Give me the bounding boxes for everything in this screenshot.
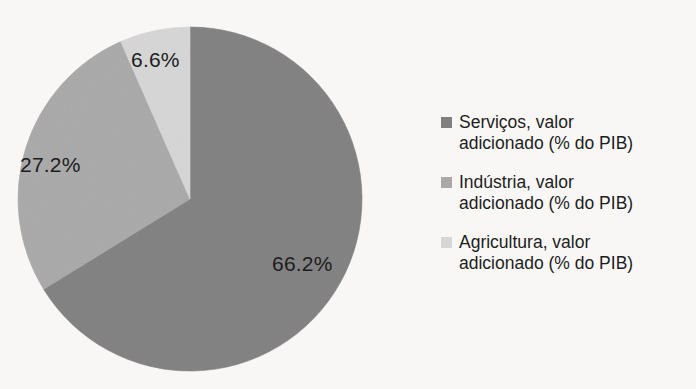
legend-label-agricultura-line1: Agricultura, valor — [459, 232, 590, 252]
legend-label-agricultura-line2: adicionado (% do PIB) — [459, 253, 633, 273]
legend-item-industria[interactable]: Indústria, valoradicionado (% do PIB) — [441, 172, 691, 214]
legend-label-industria: Indústria, valoradicionado (% do PIB) — [459, 172, 633, 214]
legend-swatch-icon-servicos — [441, 117, 452, 128]
legend-label-servicos: Serviços, valoradicionado (% do PIB) — [459, 112, 633, 154]
pie-texture-overlay — [18, 27, 362, 371]
legend-swatch-icon-industria — [441, 177, 452, 188]
legend-label-servicos-line1: Serviços, valor — [459, 112, 574, 132]
legend-item-servicos[interactable]: Serviços, valoradicionado (% do PIB) — [441, 112, 691, 154]
legend-label-agricultura: Agricultura, valoradicionado (% do PIB) — [459, 232, 633, 274]
legend-label-servicos-line2: adicionado (% do PIB) — [459, 133, 633, 153]
legend-item-agricultura[interactable]: Agricultura, valoradicionado (% do PIB) — [441, 232, 691, 274]
chart-legend: Serviços, valoradicionado (% do PIB) Ind… — [441, 112, 691, 292]
pie-chart-figure: 66.2% 27.2% 6.6% Serviços, valoradiciona… — [0, 0, 696, 389]
legend-label-industria-line1: Indústria, valor — [459, 172, 574, 192]
legend-label-industria-line2: adicionado (% do PIB) — [459, 193, 633, 213]
pie-slice-label-industria: 27.2% — [20, 153, 81, 177]
legend-swatch-icon-agricultura — [441, 237, 452, 248]
pie-slice-label-agricultura: 6.6% — [131, 48, 180, 72]
pie-slice-label-servicos: 66.2% — [272, 252, 333, 276]
